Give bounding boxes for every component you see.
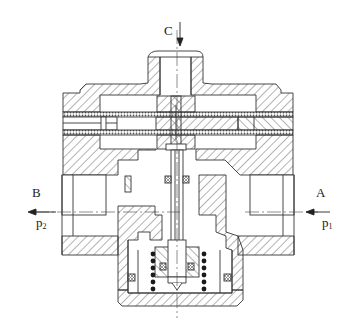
label-pressure-p2: p2	[36, 216, 47, 231]
valve-cross-section-drawing	[0, 0, 354, 328]
label-pressure-p1: p1	[322, 216, 333, 231]
arrow-c-icon	[177, 22, 183, 46]
label-port-b: B	[32, 186, 41, 199]
spring-right	[202, 252, 207, 292]
bottom-cap	[118, 290, 243, 306]
pressure-p1-sub: 1	[329, 222, 333, 231]
label-port-a: A	[316, 186, 325, 199]
pressure-p2-sub: 2	[43, 222, 47, 231]
label-port-c: C	[164, 24, 173, 37]
